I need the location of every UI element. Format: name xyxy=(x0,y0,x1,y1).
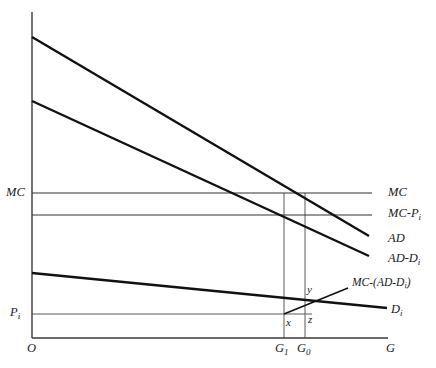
y-axis-label-pi: Pi xyxy=(10,306,20,321)
x-axis-tick-label-g1: G1 xyxy=(275,342,289,357)
curve-mc-minus-ad-minus-di-segment xyxy=(284,288,348,314)
curve-ad xyxy=(32,37,369,236)
point-label-z: z xyxy=(308,314,312,325)
curve-label-ad: AD xyxy=(388,232,405,245)
point-label-x: x xyxy=(286,317,291,328)
subscript-i: i xyxy=(18,311,21,321)
subscript-1: 1 xyxy=(284,347,289,357)
axes xyxy=(32,12,388,338)
curve-label-mc: MC xyxy=(388,186,407,199)
curve-label-mc-minus-ad-minus-di: MC-(AD-Di) xyxy=(352,277,411,291)
curve-label-mc-minus-pi: MC-Pi xyxy=(388,207,421,222)
main-curves xyxy=(32,37,387,308)
curve-mc-minus-ad-minus-di xyxy=(284,288,348,314)
subscript-i: i xyxy=(419,212,422,222)
curve-di xyxy=(32,273,387,308)
x-axis-tick-label-g0: G0 xyxy=(297,342,311,357)
subscript-0: 0 xyxy=(306,347,311,357)
x-axis-label-origin: O xyxy=(27,342,36,355)
subscript-i: i xyxy=(400,308,403,318)
curve-label-ad-minus-di: AD-Di xyxy=(388,252,420,267)
y-axis-label-mc: MC xyxy=(6,186,25,199)
subscript-i: i xyxy=(418,257,421,267)
horizontal-cost-lines xyxy=(32,193,372,215)
label-tail-paren: ) xyxy=(407,276,411,288)
curve-ad-minus-di xyxy=(32,101,369,256)
diagram-canvas xyxy=(0,0,436,368)
economics-diagram-figure: MC Pi O G1 G0 G MC MC-Pi AD AD-Di MC-(AD… xyxy=(0,0,436,368)
point-label-y: y xyxy=(307,284,312,295)
curve-label-di: Di xyxy=(391,303,403,318)
x-axis-label-g: G xyxy=(386,342,395,355)
